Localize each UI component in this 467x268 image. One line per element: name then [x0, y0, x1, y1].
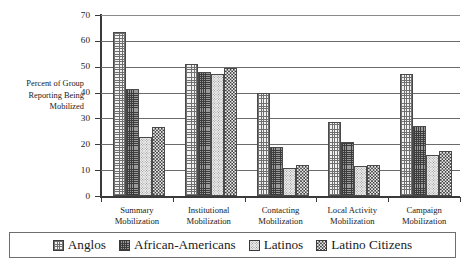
bar	[113, 32, 126, 196]
x-axis-label-line: Mobilization	[385, 216, 463, 227]
y-tick-label: 30	[62, 114, 90, 123]
x-tick-mark	[245, 197, 246, 202]
y-tick-label: 70	[62, 11, 90, 20]
x-axis-label-line: Mobilization	[170, 216, 248, 227]
bar	[426, 155, 439, 196]
bar	[211, 74, 224, 196]
bar	[328, 122, 341, 196]
y-tick-label: 0	[62, 192, 90, 201]
y-tick-label: 20	[62, 140, 90, 149]
x-tick-mark	[173, 197, 174, 202]
y-tick-label: 40	[62, 88, 90, 97]
x-axis-label: ContactingMobilization	[242, 205, 320, 226]
bar	[224, 68, 237, 196]
y-tick-label: 50	[62, 62, 90, 71]
bar	[126, 89, 139, 196]
bar	[198, 72, 211, 196]
x-axis-label: CampaignMobilization	[385, 205, 463, 226]
bar	[257, 93, 270, 196]
legend-item[interactable]: Latino Citizens	[316, 238, 412, 252]
legend-swatch-icon	[119, 240, 130, 251]
bar-group	[113, 15, 165, 196]
legend-item[interactable]: Latinos	[249, 238, 304, 252]
x-axis-line	[100, 196, 460, 198]
chart-figure: Percent of Group Reporting Being Mobiliz…	[0, 0, 467, 268]
legend-label: Latinos	[264, 238, 304, 252]
bar-group	[185, 15, 237, 196]
x-tick-mark	[316, 197, 317, 202]
legend-swatch-icon	[249, 240, 260, 251]
x-axis-label: InstitutionalMobilization	[170, 205, 248, 226]
bar	[270, 147, 283, 196]
y-axis-title-line-3: Mobilized	[6, 101, 84, 113]
x-tick-mark	[388, 197, 389, 202]
plot-wrapper: Percent of Group Reporting Being Mobiliz…	[0, 0, 467, 222]
bar	[296, 165, 309, 196]
legend-item[interactable]: African-Americans	[119, 238, 236, 252]
plot-area	[101, 15, 460, 196]
bar-group	[400, 15, 452, 196]
bar	[367, 165, 380, 196]
bar	[439, 151, 452, 196]
legend-label: Latino Citizens	[331, 238, 412, 252]
legend-swatch-icon	[316, 240, 327, 251]
x-axis-label-line: Mobilization	[242, 216, 320, 227]
bar-group	[257, 15, 309, 196]
bar	[400, 74, 413, 196]
x-axis-label: SummaryMobilization	[98, 205, 176, 226]
bar	[413, 126, 426, 196]
x-axis-label-line: Contacting	[242, 205, 320, 216]
bar	[341, 142, 354, 196]
x-axis-label-line: Summary	[98, 205, 176, 216]
legend-label: African-Americans	[134, 238, 236, 252]
legend-swatch-icon	[53, 240, 64, 251]
legend-label: Anglos	[68, 238, 106, 252]
y-tick-label: 60	[62, 36, 90, 45]
x-axis-label: Local ActivityMobilization	[313, 205, 391, 226]
legend-item[interactable]: Anglos	[53, 238, 106, 252]
bar	[354, 166, 367, 196]
x-axis-label-line: Local Activity	[313, 205, 391, 216]
x-tick-mark	[101, 197, 102, 202]
bar	[185, 64, 198, 196]
x-axis-label-line: Institutional	[170, 205, 248, 216]
bar	[283, 168, 296, 196]
x-tick-mark	[460, 197, 461, 202]
chart-legend: AnglosAfrican-AmericansLatinosLatino Cit…	[9, 232, 456, 258]
y-tick-label: 10	[62, 166, 90, 175]
bar	[152, 127, 165, 196]
x-axis-label-line: Campaign	[385, 205, 463, 216]
bar	[139, 137, 152, 196]
x-axis-label-line: Mobilization	[313, 216, 391, 227]
bar-group	[328, 15, 380, 196]
x-axis-label-line: Mobilization	[98, 216, 176, 227]
